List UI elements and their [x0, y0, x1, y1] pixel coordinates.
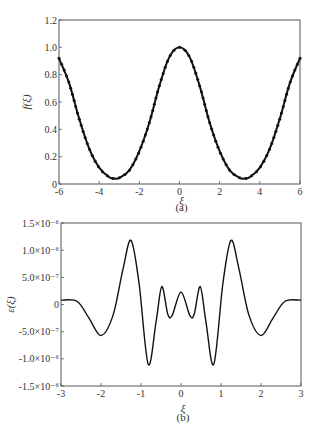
x-tick-label: 2: [217, 186, 222, 197]
panel-a-chart: -6-4-2024600.20.40.60.81.01.2ξf(ξ)(a): [20, 15, 303, 215]
y-tick-label: 0.2: [45, 151, 58, 162]
y-tick-label: 0.4: [45, 124, 58, 135]
x-tick-label: 0: [179, 388, 184, 399]
x-tick-label: 4: [257, 186, 262, 197]
y-tick-label: 0: [52, 179, 57, 190]
figure: -6-4-2024600.20.40.60.81.01.2ξf(ξ)(a) -3…: [0, 0, 310, 424]
y-tick-label: 0.6: [45, 97, 58, 108]
panel-caption: (b): [177, 411, 190, 424]
y-tick-label: -5.0×10⁻⁷: [19, 326, 60, 337]
x-tick-label: 6: [298, 186, 303, 197]
x-axis: -3-2-10123: [57, 383, 304, 399]
y-tick-label: 1.0×10⁻⁶: [22, 245, 59, 256]
y-tick-label: 1.2: [45, 15, 58, 26]
x-tick-label: 2: [259, 388, 264, 399]
x-tick-label: 3: [299, 388, 304, 399]
plot-frame: [61, 223, 301, 386]
y-axis-label: ε(ξ): [4, 296, 17, 313]
panel-b-chart: -3-2-101231.5×10⁻⁶1.0×10⁻⁶5.0×10⁻⁷0-5.0×…: [4, 218, 304, 424]
y-tick-label: 0.8: [45, 69, 58, 80]
y-tick-label: -1.5×10⁻⁶: [19, 381, 60, 392]
y-axis-label: f(ξ): [20, 94, 33, 109]
data-series-line: [59, 47, 300, 178]
y-axis: 1.5×10⁻⁶1.0×10⁻⁶5.0×10⁻⁷0-5.0×10⁻⁷-1.0×1…: [19, 218, 64, 392]
x-tick-label: -4: [95, 186, 103, 197]
x-tick-label: -2: [135, 186, 143, 197]
y-tick-label: 5.0×10⁻⁷: [22, 272, 59, 283]
panel-caption: (a): [175, 201, 188, 214]
x-tick-label: 1: [219, 388, 224, 399]
x-tick-label: -1: [137, 388, 145, 399]
y-tick-label: 1.0: [45, 42, 58, 53]
y-tick-label: 0: [54, 299, 59, 310]
y-tick-label: 1.5×10⁻⁶: [22, 218, 59, 229]
data-series-line: [61, 240, 301, 365]
y-tick-label: -1.0×10⁻⁶: [19, 353, 60, 364]
x-tick-label: -2: [97, 388, 105, 399]
